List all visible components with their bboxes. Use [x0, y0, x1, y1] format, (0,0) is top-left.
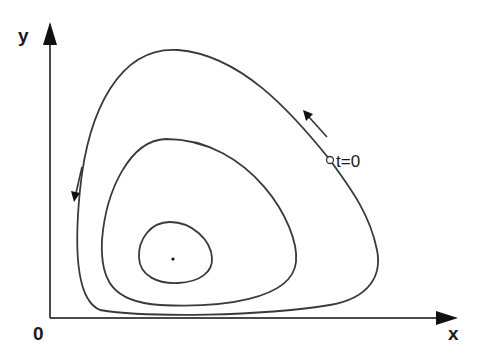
- y-axis-label: y: [18, 25, 29, 46]
- inner-orbit: [139, 222, 212, 283]
- middle-orbit: [102, 139, 296, 306]
- y-axis-arrowhead-icon: [43, 22, 57, 45]
- origin-label: 0: [33, 323, 44, 344]
- equilibrium-point: [171, 257, 174, 260]
- phase-portrait-diagram: y x 0 t=0: [0, 0, 477, 358]
- start-point-label: t=0: [336, 152, 360, 171]
- outer-orbit: [77, 50, 378, 315]
- start-point-marker: [327, 157, 334, 164]
- x-axis-label: x: [448, 323, 459, 344]
